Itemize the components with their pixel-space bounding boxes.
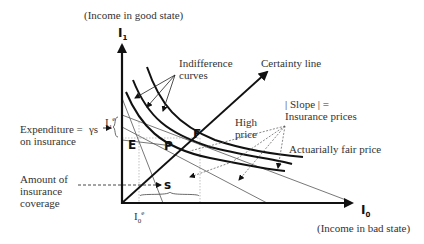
point-s: s [164, 179, 171, 191]
point-e: E [128, 139, 136, 151]
actuarially-fair-price-label: Actuarially fair price [289, 143, 381, 155]
expenditure-label: Expenditure = on insurance [20, 123, 83, 147]
tick-i0e: I0e [134, 207, 144, 227]
certainty-line-label: Certainty line [261, 57, 321, 69]
expenditure-line2: on insurance [20, 135, 83, 147]
y-axis-symbol-sub: 1 [122, 34, 127, 42]
coverage-brace [140, 192, 199, 196]
slope-label-line1: | Slope | = [285, 98, 357, 110]
y-axis-symbol: I1 [118, 27, 127, 44]
coverage-label: Amount of insurance coverage [20, 173, 68, 209]
x-axis-symbol: I0 [361, 204, 370, 221]
indifference-curves-label: Indifference curves [179, 57, 233, 81]
tick-i1e-sub: 1 [109, 123, 113, 131]
slope-label: | Slope | = Insurance prices [285, 98, 357, 122]
tick-i1e: I1e [105, 113, 115, 133]
x-axis-caption: (Income in bad state) [317, 222, 410, 234]
tick-i0e-sub: 0 [138, 217, 142, 225]
high-price-line1: High [235, 116, 257, 128]
guide-lines [122, 122, 200, 203]
expenditure-formula: γs [89, 123, 98, 135]
coverage-line2: insurance [20, 185, 68, 197]
high-price-line2: price [235, 128, 257, 140]
tick-i1e-sup: e [112, 115, 115, 123]
expenditure-line1: Expenditure = [20, 123, 83, 135]
y-axis-caption: (Income in good state) [84, 9, 183, 21]
indifference-label-arrows [135, 75, 175, 111]
x-axis-symbol-sub: 0 [365, 211, 370, 219]
coverage-line3: coverage [20, 197, 68, 209]
fair-price-line [122, 115, 346, 200]
tick-i0e-sup: e [141, 209, 144, 217]
coverage-line1: Amount of [20, 173, 68, 185]
high-price-label: High price [235, 116, 257, 140]
slope-label-line2: Insurance prices [285, 110, 357, 122]
point-f: F [193, 128, 201, 140]
point-p: P [164, 140, 173, 152]
indifference-label-line2: curves [179, 69, 233, 81]
indifference-label-line1: Indifference [179, 57, 233, 69]
